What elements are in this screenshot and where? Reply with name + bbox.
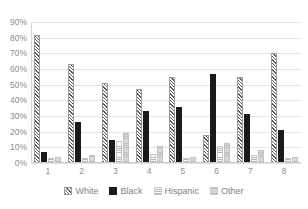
y-axis-tick-labels: 0%10%20%30%40%50%60%70%80%90% — [0, 0, 31, 209]
legend-item-hispanic[interactable]: Hispanic — [154, 186, 200, 196]
bar-black-8 — [278, 130, 284, 163]
bar-group-8 — [267, 22, 301, 163]
bar-group-5 — [166, 22, 200, 163]
gridline — [31, 163, 301, 164]
legend-swatch-black-icon — [109, 187, 117, 195]
legend-item-black[interactable]: Black — [109, 186, 142, 196]
bar-black-4 — [143, 111, 149, 163]
chart-legend: WhiteBlackHispanicOther — [0, 186, 308, 196]
bar-groups — [31, 22, 301, 163]
bar-white-5 — [169, 77, 175, 163]
bar-white-6 — [203, 135, 209, 163]
y-axis-tick-20: 20% — [10, 128, 27, 136]
bar-hispanic-3 — [116, 141, 122, 163]
legend-label: White — [75, 186, 98, 196]
x-axis-line — [31, 162, 301, 163]
x-axis-tick-labels: 12345678 — [31, 165, 301, 179]
x-axis-tick-3: 3 — [99, 165, 133, 179]
legend-label: Black — [120, 186, 142, 196]
bar-black-2 — [75, 122, 81, 163]
x-axis-tick-8: 8 — [267, 165, 301, 179]
bar-other-6 — [224, 143, 230, 163]
y-axis-tick-10: 10% — [10, 143, 27, 151]
y-axis-tick-80: 80% — [10, 34, 27, 42]
bar-group-2 — [65, 22, 99, 163]
x-axis-tick-6: 6 — [200, 165, 234, 179]
legend-swatch-white-icon — [64, 187, 72, 195]
bar-white-4 — [136, 89, 142, 163]
bar-black-5 — [176, 107, 182, 163]
bar-group-1 — [31, 22, 65, 163]
bar-white-8 — [271, 53, 277, 163]
bar-group-3 — [99, 22, 133, 163]
y-axis-tick-40: 40% — [10, 96, 27, 104]
y-axis-tick-90: 90% — [10, 18, 27, 26]
legend-label: Other — [221, 186, 244, 196]
legend-item-white[interactable]: White — [64, 186, 98, 196]
plot-area — [31, 22, 301, 163]
legend-swatch-other-icon — [210, 187, 218, 195]
bar-black-3 — [109, 140, 115, 164]
bar-white-3 — [102, 83, 108, 163]
bar-black-7 — [244, 114, 250, 163]
legend-swatch-hispanic-icon — [154, 187, 162, 195]
y-axis-tick-0: 0% — [15, 159, 27, 167]
bar-hispanic-6 — [217, 146, 223, 163]
x-axis-tick-4: 4 — [132, 165, 166, 179]
bar-group-7 — [234, 22, 268, 163]
legend-label: Hispanic — [165, 186, 200, 196]
bar-white-2 — [68, 64, 74, 163]
bar-chart: 0%10%20%30%40%50%60%70%80%90% 12345678 W… — [0, 0, 308, 209]
x-axis-tick-7: 7 — [234, 165, 268, 179]
bar-group-6 — [200, 22, 234, 163]
bar-white-1 — [34, 35, 40, 163]
legend-item-other[interactable]: Other — [210, 186, 244, 196]
x-axis-tick-2: 2 — [65, 165, 99, 179]
bar-other-4 — [157, 146, 163, 163]
bar-other-3 — [123, 133, 129, 163]
y-axis-tick-60: 60% — [10, 65, 27, 73]
bar-group-4 — [132, 22, 166, 163]
bar-white-7 — [237, 77, 243, 163]
y-axis-tick-70: 70% — [10, 49, 27, 57]
x-axis-tick-5: 5 — [166, 165, 200, 179]
y-axis-tick-50: 50% — [10, 81, 27, 89]
y-axis-tick-30: 30% — [10, 112, 27, 120]
x-axis-tick-1: 1 — [31, 165, 65, 179]
bar-black-6 — [210, 74, 216, 163]
